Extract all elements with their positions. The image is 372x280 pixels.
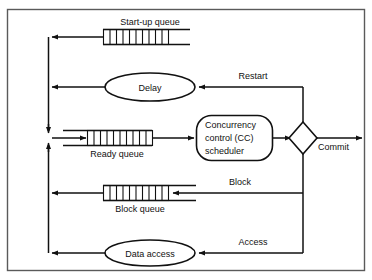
data-access-label: Data access (125, 249, 175, 259)
decision-diamond (289, 122, 317, 154)
ready-queue-label: Ready queue (90, 149, 144, 159)
restart-label: Restart (238, 71, 268, 81)
startup-queue-label: Start-up queue (120, 17, 180, 27)
cc-scheduler-line3: scheduler (205, 146, 244, 156)
cc-scheduler-line1: Concurrency (205, 120, 257, 130)
startup-queue-shape (103, 30, 190, 45)
block-label: Block (229, 177, 252, 187)
cc-scheduler-line2: control (CC) (205, 133, 254, 143)
access-label: Access (238, 237, 268, 247)
delay-label: Delay (138, 83, 162, 93)
flow-diagram-svg: Start-up queue Delay Restart Ready queue… (0, 0, 372, 280)
diagram-canvas: Start-up queue Delay Restart Ready queue… (0, 0, 372, 280)
block-queue-label: Block queue (115, 204, 165, 214)
commit-label: Commit (318, 142, 349, 152)
